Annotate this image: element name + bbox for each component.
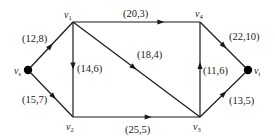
arrow-icon bbox=[70, 63, 75, 70]
edge-label: (14,6) bbox=[77, 63, 103, 75]
node-label-v4: v4 bbox=[195, 8, 203, 20]
arrow-icon bbox=[145, 114, 152, 119]
edge-label: (15,7) bbox=[22, 94, 48, 106]
edge-label: (22,10) bbox=[229, 31, 260, 43]
node-vt-dot bbox=[244, 66, 252, 74]
arrow-icon bbox=[157, 19, 164, 24]
node-label-v3: v3 bbox=[193, 121, 201, 133]
edge-label: (20,3) bbox=[123, 8, 149, 20]
node-label-vt: vt bbox=[254, 65, 260, 77]
node-vs-dot bbox=[24, 66, 32, 74]
edge-label: (11,6) bbox=[203, 65, 228, 77]
arrow-icon bbox=[129, 63, 136, 69]
edges-layer: (12,8)(15,7)(20,3)(14,6)(18,4)(25,5)(11,… bbox=[22, 8, 260, 136]
edge-label: (13,5) bbox=[229, 95, 255, 107]
node-label-v2: v2 bbox=[66, 121, 74, 133]
edge-label: (12,8) bbox=[22, 33, 48, 45]
network-flow-diagram: (12,8)(15,7)(20,3)(14,6)(18,4)(25,5)(11,… bbox=[0, 0, 275, 136]
arrow-icon bbox=[197, 62, 202, 69]
node-label-vs: vs bbox=[14, 65, 21, 77]
node-label-v1: v1 bbox=[64, 9, 72, 21]
edge-label: (18,4) bbox=[137, 49, 163, 61]
edge-label: (25,5) bbox=[125, 124, 151, 136]
